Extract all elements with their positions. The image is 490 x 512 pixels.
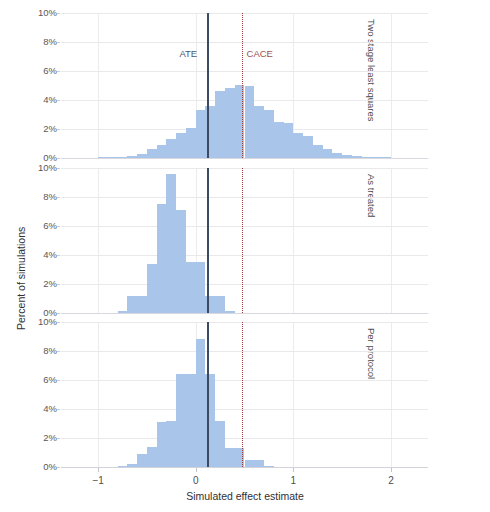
x-tick-mark (98, 468, 99, 472)
histogram-bar (127, 156, 137, 158)
gridline (61, 197, 428, 198)
y-tick-mark (57, 100, 60, 101)
reference-label-cace: CACE (247, 49, 273, 59)
vertical-gridline (98, 168, 99, 313)
vertical-gridline (293, 168, 294, 313)
y-tick-mark (57, 226, 60, 227)
histogram-bar (186, 128, 196, 158)
y-tick-label: 2% (43, 279, 57, 289)
histogram-bar (186, 262, 196, 313)
histogram-bar (108, 157, 118, 158)
panel-per-protocol (61, 322, 428, 467)
x-tick-label: −1 (92, 476, 103, 486)
histogram-bar (381, 157, 391, 158)
plot-area (61, 322, 428, 467)
vertical-gridline (391, 168, 392, 313)
y-tick-mark (57, 284, 60, 285)
y-tick-label: 6% (43, 66, 57, 76)
y-tick-mark (57, 129, 60, 130)
histogram-bar (176, 374, 186, 467)
y-tick-mark (57, 158, 60, 159)
gridline (61, 255, 428, 256)
y-tick-mark (57, 168, 60, 169)
gridline (61, 380, 428, 381)
histogram-bar (196, 339, 206, 467)
histogram-bar (127, 296, 137, 313)
y-tick-mark (57, 409, 60, 410)
y-tick-label: 8% (43, 192, 57, 202)
histogram-bar (313, 145, 323, 158)
reference-line-cace (242, 168, 243, 313)
x-tick-label: 0 (193, 476, 199, 486)
histogram-bar (98, 157, 108, 158)
histogram-bar (254, 106, 264, 158)
gridline (61, 42, 428, 43)
gridline (61, 168, 428, 169)
gridline (61, 158, 428, 159)
reference-line-cace (242, 13, 243, 158)
reference-line-ate (207, 322, 208, 467)
histogram-bar (225, 311, 235, 313)
histogram-bar (274, 122, 284, 158)
histogram-bar (118, 311, 128, 313)
histogram-bar (264, 110, 274, 158)
y-tick-label: 4% (43, 95, 57, 105)
histogram-bar (225, 88, 235, 158)
gridline (61, 313, 428, 314)
histogram-bar (166, 139, 176, 158)
y-tick-mark (57, 197, 60, 198)
gridline (61, 71, 428, 72)
histogram-bar (215, 421, 225, 467)
histogram-bar (371, 157, 381, 158)
y-tick-mark (57, 42, 60, 43)
gridline (61, 322, 428, 323)
simulation-histogram-figure: Percent of simulations 0%2%4%6%8%10%Two … (0, 0, 490, 512)
histogram-bar (245, 86, 255, 159)
histogram-bar (118, 157, 128, 158)
histogram-bar (176, 133, 186, 158)
y-tick-mark (57, 322, 60, 323)
y-tick-mark (57, 467, 60, 468)
histogram-bar (196, 262, 206, 313)
histogram-bar (235, 448, 245, 467)
y-tick-label: 6% (43, 375, 57, 385)
plot-area (61, 13, 428, 158)
histogram-bar (137, 454, 147, 467)
x-tick-mark (391, 468, 392, 472)
histogram-bar (293, 133, 303, 158)
y-tick-label: 2% (43, 124, 57, 134)
histogram-bar (303, 136, 313, 158)
histogram-bar (196, 110, 206, 158)
x-axis-title: Simulated effect estimate (0, 491, 490, 502)
histogram-bar (215, 91, 225, 158)
reference-line-ate (207, 168, 208, 313)
panel-two-stage-least-squares (61, 13, 428, 158)
y-tick-label: 10% (38, 317, 57, 327)
x-tick-label: 1 (291, 476, 297, 486)
gridline (61, 409, 428, 410)
histogram-bar (147, 264, 157, 313)
histogram-bar (332, 153, 342, 158)
gridline (61, 351, 428, 352)
y-tick-label: 6% (43, 221, 57, 231)
y-tick-label: 4% (43, 250, 57, 260)
y-tick-label: 0% (43, 462, 57, 472)
vertical-gridline (293, 322, 294, 467)
plot-area (61, 168, 428, 313)
histogram-bar (362, 157, 372, 158)
histogram-bar (352, 156, 362, 158)
histogram-bar (215, 296, 225, 313)
histogram-bar (137, 154, 147, 158)
gridline (61, 226, 428, 227)
vertical-gridline (98, 13, 99, 158)
y-tick-label: 10% (38, 163, 57, 173)
x-tick-label: 2 (388, 476, 394, 486)
histogram-bar (147, 149, 157, 158)
y-tick-label: 10% (38, 8, 57, 18)
histogram-bar (166, 174, 176, 313)
y-tick-mark (57, 13, 60, 14)
histogram-bar (157, 145, 167, 158)
histogram-bar (225, 448, 235, 467)
histogram-bar (284, 123, 294, 158)
histogram-bar (323, 149, 333, 158)
